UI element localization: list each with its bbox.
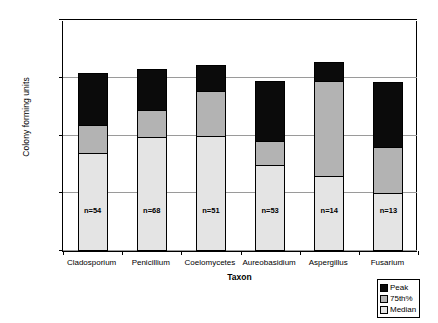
x-tick-mark <box>359 251 360 255</box>
bar-group[interactable]: n=13 <box>373 21 403 251</box>
legend-swatch-icon <box>380 284 388 292</box>
bar-group[interactable]: n=14 <box>314 21 344 251</box>
bar-segment-median[interactable] <box>137 137 167 251</box>
sample-size-label: n=14 <box>314 206 344 215</box>
sample-size-label: n=68 <box>137 206 167 215</box>
legend-swatch-icon <box>380 306 388 314</box>
x-tick-mark <box>241 251 242 255</box>
bar-group[interactable]: n=51 <box>196 21 226 251</box>
sample-size-label: n=51 <box>196 206 226 215</box>
legend-label: 75th% <box>390 295 413 303</box>
x-tick-label-fusarium: Fusarium <box>342 258 432 267</box>
bar-segment-median[interactable] <box>196 136 226 252</box>
bar-group[interactable]: n=54 <box>78 21 108 251</box>
sample-size-label: n=54 <box>78 206 108 215</box>
legend-label: Peak <box>390 284 408 292</box>
bar-group[interactable]: n=68 <box>137 21 167 251</box>
x-axis-title: Taxon <box>62 272 417 282</box>
x-tick-mark <box>122 251 123 255</box>
bars-layer: n=54n=68n=51n=53n=14n=13 <box>63 21 417 251</box>
x-tick-mark <box>300 251 301 255</box>
legend-item[interactable]: 75th% <box>380 293 416 304</box>
legend-label: Median <box>390 306 416 314</box>
bar-group[interactable]: n=53 <box>255 21 285 251</box>
bar-segment-median[interactable] <box>78 153 108 251</box>
x-tick-mark <box>418 251 419 255</box>
colony-forming-units-bar-chart: Colony forming units n=54n=68n=51n=53n=1… <box>0 0 438 323</box>
sample-size-label: n=53 <box>255 206 285 215</box>
legend-item[interactable]: Peak <box>380 282 416 293</box>
y-tick-mark-1000000 <box>59 19 63 20</box>
legend-item[interactable]: Median <box>380 304 416 315</box>
gridline-1000000 <box>63 19 417 20</box>
x-tick-mark <box>181 251 182 255</box>
bar-segment-median[interactable] <box>373 193 403 251</box>
sample-size-label: n=13 <box>373 206 403 215</box>
chart-legend: Peak75th%Median <box>377 279 420 318</box>
x-tick-mark <box>63 251 64 255</box>
y-axis-title: Colony forming units <box>21 47 31 187</box>
plot-area: n=54n=68n=51n=53n=14n=13 <box>62 21 417 252</box>
legend-swatch-icon <box>380 295 388 303</box>
